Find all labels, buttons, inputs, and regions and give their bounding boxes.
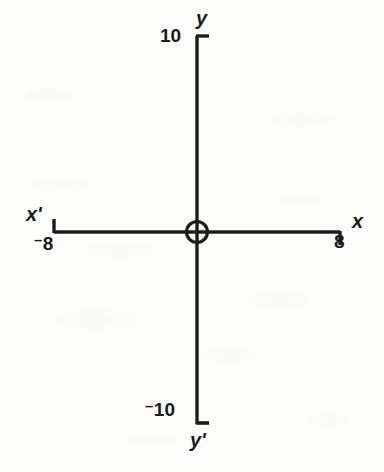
y-axis-label: y xyxy=(196,8,207,28)
x-axis-min-tick-value: 8 xyxy=(43,233,54,254)
minus-sign-x-min: – xyxy=(34,231,42,248)
x-prime-axis-label: x' xyxy=(26,204,42,224)
y-axis-max-tick-label: 10 xyxy=(160,26,181,45)
axes-drawing xyxy=(0,0,384,472)
y-axis-min-tick-value: 10 xyxy=(154,399,175,420)
y-axis-min-tick-label: –10 xyxy=(145,398,175,419)
x-axis-label: x xyxy=(352,211,363,231)
coordinate-axes-figure: y 10 –10 y' x' –8 x 8 xyxy=(0,0,384,472)
minus-sign-y-min: – xyxy=(145,397,153,414)
x-axis-min-tick-label: –8 xyxy=(34,232,53,253)
y-prime-axis-label: y' xyxy=(190,430,206,450)
x-axis-max-tick-label: 8 xyxy=(334,232,345,251)
